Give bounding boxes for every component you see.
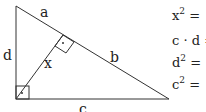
equation-c-times-d: c · d = (172, 34, 206, 48)
right-angle-dot-foot (62, 42, 64, 44)
equation-x-squared: x2 = (172, 9, 200, 23)
label-c: c (79, 101, 87, 112)
triangle (16, 6, 169, 99)
equation-d-squared: d2 = (172, 56, 201, 70)
eq-base: c · d (172, 33, 200, 48)
label-a: a (40, 4, 48, 20)
label-b: b (110, 49, 119, 65)
eq-rest: = (200, 33, 206, 48)
eq-rest: = (186, 55, 201, 70)
eq-rest: = (185, 77, 200, 92)
right-angle-marker-foot (55, 35, 74, 53)
eq-rest: = (185, 8, 200, 23)
label-d: d (3, 47, 12, 63)
right-angle-dot-corner (21, 92, 23, 94)
equation-c-squared: c2 = (172, 78, 200, 92)
label-x: x (44, 55, 52, 71)
